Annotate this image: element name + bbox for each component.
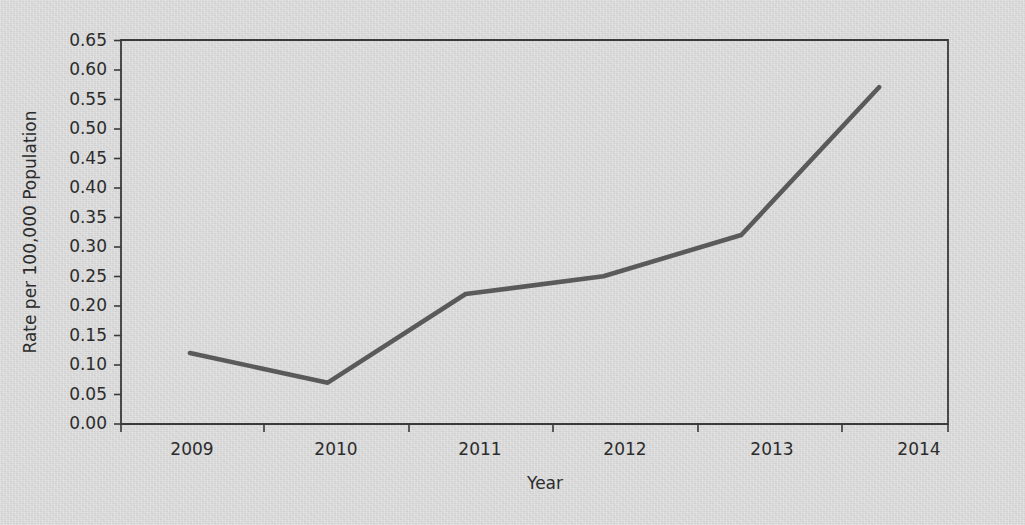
x-axis-title: Year (526, 473, 563, 493)
figure-page: 0.00 0.05 0.10 0.15 0.20 0.25 0.30 0.35 … (0, 0, 1025, 525)
x-tick-label: 2013 (750, 439, 793, 459)
y-tick-label: 0.40 (69, 177, 107, 197)
y-tick-label: 0.25 (69, 266, 107, 286)
y-tick-label: 0.15 (69, 325, 107, 345)
y-tick-label: 0.45 (69, 148, 107, 168)
x-tick-labels: 2009 2010 2011 2012 2013 2014 (170, 439, 940, 459)
y-tick-label: 0.65 (69, 30, 107, 50)
y-tick-group (114, 41, 121, 425)
x-axis: 2009 2010 2011 2012 2013 2014 Year (121, 424, 948, 493)
y-tick-label: 0.50 (69, 118, 107, 138)
x-tick-label: 2014 (897, 439, 940, 459)
y-tick-label: 0.60 (69, 59, 107, 79)
y-tick-label: 0.05 (69, 384, 107, 404)
y-axis: 0.00 0.05 0.10 0.15 0.20 0.25 0.30 0.35 … (20, 30, 121, 434)
y-tick-label: 0.20 (69, 295, 107, 315)
x-tick-label: 2009 (170, 439, 213, 459)
y-tick-label: 0.30 (69, 236, 107, 256)
y-axis-title: Rate per 100,000 Population (20, 110, 40, 353)
x-tick-group (121, 424, 948, 432)
y-tick-label: 0.10 (69, 354, 107, 374)
y-tick-label: 0.35 (69, 207, 107, 227)
data-series-group (190, 87, 879, 382)
x-tick-label: 2010 (314, 439, 357, 459)
line-chart: 0.00 0.05 0.10 0.15 0.20 0.25 0.30 0.35 … (0, 0, 1025, 525)
data-line-rate (190, 87, 879, 382)
x-tick-label: 2012 (603, 439, 646, 459)
y-tick-label: 0.00 (69, 413, 107, 433)
y-tick-label: 0.55 (69, 89, 107, 109)
x-tick-label: 2011 (458, 439, 501, 459)
y-tick-labels: 0.00 0.05 0.10 0.15 0.20 0.25 0.30 0.35 … (69, 30, 107, 434)
